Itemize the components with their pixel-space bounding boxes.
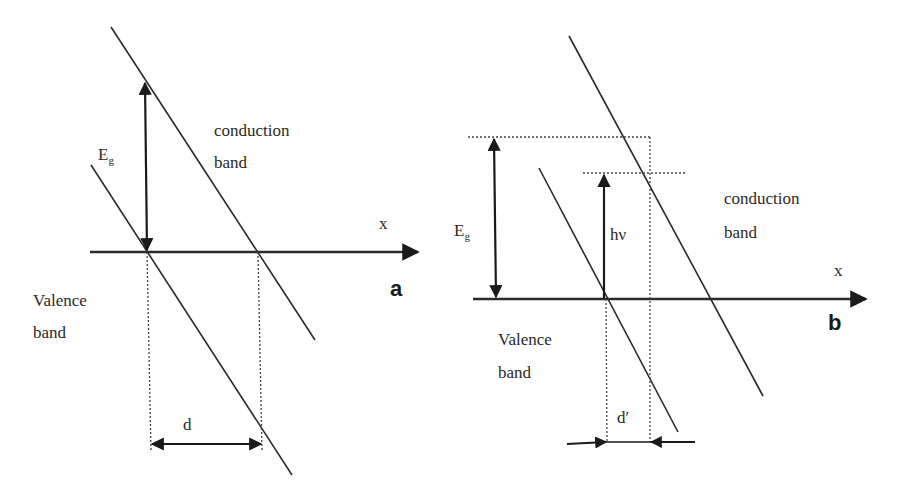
photon-energy-label-b: hν — [610, 225, 627, 244]
distance-arrow-left-b — [567, 442, 606, 444]
conduction-band-label-b-line2: band — [724, 223, 758, 242]
dotted-guide-right-a — [258, 252, 262, 452]
conduction-band-edge-a — [111, 27, 315, 340]
energy-gap-arrow-a — [145, 83, 147, 250]
valence-band-label-b-line2: band — [498, 363, 532, 382]
dotted-guide-left-b — [606, 299, 607, 442]
valence-band-label-b-line1: Valence — [498, 330, 552, 349]
panel-b: Eg hν conduction band x b Valence band d… — [454, 36, 866, 444]
axis-label-x-a: x — [379, 214, 388, 233]
energy-gap-arrow-b — [494, 139, 496, 297]
axis-label-x-b: x — [834, 261, 843, 280]
panel-label-a: a — [390, 276, 403, 301]
conduction-band-edge-b — [569, 36, 763, 396]
distance-label-a: d — [183, 415, 192, 434]
panel-label-b: b — [828, 310, 841, 335]
conduction-band-label-b-line1: conduction — [724, 189, 800, 208]
energy-gap-label-a: Eg — [98, 145, 114, 166]
distance-label-b: d′ — [617, 408, 629, 427]
panel-a: Eg conduction band x a Valence band d — [33, 27, 418, 475]
conduction-band-label-a-line2: band — [214, 153, 248, 172]
energy-gap-label-b: Eg — [454, 221, 470, 242]
band-diagram-canvas: Eg conduction band x a Valence band d E — [0, 0, 903, 496]
conduction-band-label-a-line1: conduction — [214, 121, 290, 140]
valence-band-label-a-line2: band — [33, 323, 67, 342]
valence-band-label-a-line1: Valence — [33, 291, 87, 310]
dotted-guide-left-a — [147, 252, 151, 452]
